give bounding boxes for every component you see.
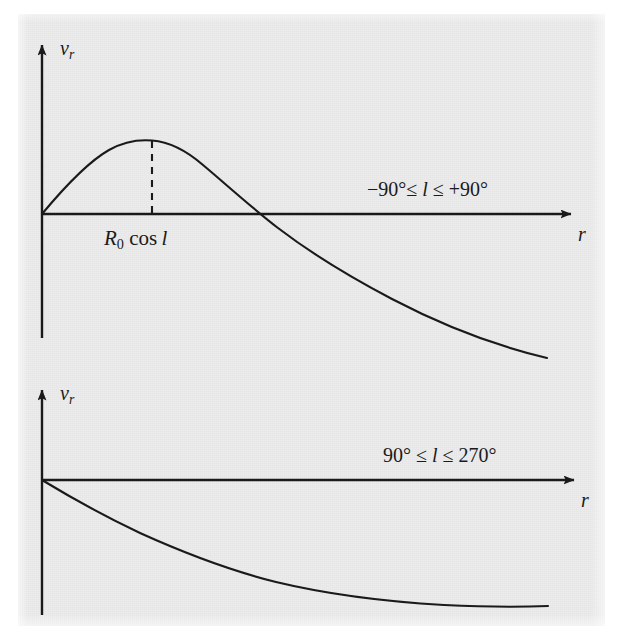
- bottom-y-axis-label-sub: r: [69, 392, 74, 407]
- bottom-y-axis-label-v: v: [60, 382, 69, 404]
- marker-label-subscript: 0: [117, 236, 124, 252]
- panel-bottom: [42, 390, 574, 615]
- bottom-y-axis-label: vr: [60, 383, 74, 406]
- marker-label-R: R: [104, 226, 117, 250]
- top-range-lower: −90°: [367, 178, 406, 200]
- top-y-axis-label: vr: [60, 38, 74, 61]
- top-range-upper: +90°: [449, 178, 488, 200]
- marker-label-l: l: [161, 226, 167, 250]
- top-longitude-range-annotation: −90°≤ l ≤ +90°: [367, 179, 488, 199]
- top-peak-marker-label: R0 cos l: [104, 228, 167, 251]
- top-y-axis-label-v: v: [60, 37, 69, 59]
- bottom-curve: [42, 480, 548, 607]
- bottom-range-lower: 90°: [383, 444, 411, 466]
- bottom-range-rel1: ≤: [416, 444, 427, 466]
- marker-label-cos: cos: [129, 226, 157, 250]
- top-y-axis-label-sub: r: [69, 47, 74, 62]
- bottom-x-axis-label: r: [581, 490, 589, 510]
- bottom-range-rel2: ≤: [443, 444, 454, 466]
- top-range-rel2: ≤: [433, 178, 444, 200]
- plot-canvas: [0, 0, 618, 639]
- top-x-axis-label: r: [578, 224, 586, 244]
- bottom-range-upper: 270°: [459, 444, 497, 466]
- top-range-rel1: ≤: [406, 178, 417, 200]
- panel-top: [42, 45, 571, 358]
- figure-container: vr r R0 cos l −90°≤ l ≤ +90° vr r 90° ≤ …: [0, 0, 618, 639]
- bottom-longitude-range-annotation: 90° ≤ l ≤ 270°: [383, 445, 497, 465]
